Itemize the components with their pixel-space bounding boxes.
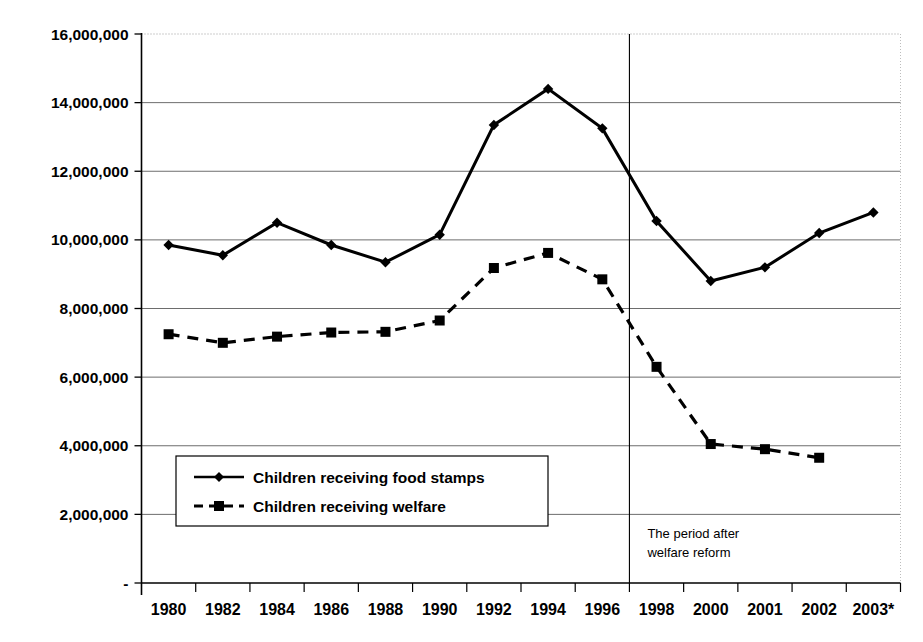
data-point-marker-diamond <box>326 240 336 250</box>
data-point-marker-square <box>489 263 499 273</box>
line-chart: -2,000,0004,000,0006,000,0008,000,00010,… <box>0 0 923 642</box>
data-point-marker-square <box>814 453 824 463</box>
data-point-marker-diamond <box>868 207 878 217</box>
y-axis-tick-label: 6,000,000 <box>60 369 129 386</box>
reform-annotation-line2: welfare reform <box>646 545 730 560</box>
y-axis-tick-label: 8,000,000 <box>60 300 129 317</box>
y-axis-tick-label: 2,000,000 <box>60 506 129 523</box>
y-axis-tick-label: 16,000,000 <box>51 26 129 43</box>
data-point-marker-square <box>380 327 390 337</box>
data-point-marker-square <box>435 316 445 326</box>
y-axis-tick-label: 14,000,000 <box>51 94 129 111</box>
data-point-marker-diamond <box>163 240 173 250</box>
chart-container: -2,000,0004,000,0006,000,0008,000,00010,… <box>0 0 923 642</box>
reform-annotation-line1: The period after <box>647 526 739 541</box>
series-line-2 <box>169 253 820 458</box>
data-point-marker-square <box>272 332 282 342</box>
x-axis-tick-label: 1988 <box>368 601 404 618</box>
data-point-marker-square <box>652 362 662 372</box>
y-axis-tick-label: - <box>123 575 128 592</box>
data-point-marker-square <box>164 329 174 339</box>
chart-legend: Children receiving food stampsChildren r… <box>176 456 548 526</box>
y-axis-tick-label: 12,000,000 <box>51 163 129 180</box>
legend-box <box>176 456 548 526</box>
y-axis-tick-label: 4,000,000 <box>60 437 129 454</box>
data-point-marker-square <box>543 248 553 258</box>
data-point-marker-square <box>326 328 336 338</box>
legend-item-label: Children receiving welfare <box>253 498 446 515</box>
data-point-marker-square <box>760 444 770 454</box>
x-axis-tick-label: 1992 <box>476 601 512 618</box>
x-axis-tick-label: 2001 <box>747 601 783 618</box>
x-axis-tick-label: 1994 <box>530 601 566 618</box>
x-axis-tick-label: 2002 <box>801 601 837 618</box>
x-axis-ticks: 1980198219841986198819901992199419961998… <box>151 583 901 618</box>
data-point-marker-diamond <box>380 257 390 267</box>
data-point-marker-diamond <box>434 230 444 240</box>
x-axis-tick-label: 1982 <box>205 601 241 618</box>
x-axis-tick-label: 2003* <box>852 601 895 618</box>
x-axis-tick-label: 1984 <box>259 601 295 618</box>
x-axis-tick-label: 1998 <box>639 601 675 618</box>
data-point-marker-square <box>597 274 607 284</box>
x-axis-tick-label: 2000 <box>693 601 729 618</box>
legend-marker-square <box>214 501 224 511</box>
x-axis-tick-label: 1996 <box>585 601 621 618</box>
series-line-1 <box>169 89 874 281</box>
data-point-marker-square <box>706 439 716 449</box>
x-axis-tick-label: 1990 <box>422 601 458 618</box>
data-point-marker-square <box>218 338 228 348</box>
legend-item-label: Children receiving food stamps <box>253 469 485 486</box>
x-axis-tick-label: 1980 <box>151 601 187 618</box>
y-axis-tick-label: 10,000,000 <box>51 231 129 248</box>
x-axis-tick-label: 1986 <box>313 601 349 618</box>
